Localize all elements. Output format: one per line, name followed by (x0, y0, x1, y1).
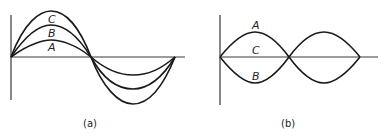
panel-b: A C B (b) (220, 15, 378, 129)
label-c-b: C (252, 44, 260, 57)
label-a-b: A (251, 19, 260, 32)
curve-a-upper (220, 32, 360, 57)
caption-b: (b) (281, 118, 295, 129)
label-b-a: B (48, 27, 56, 40)
curve-b-lower (220, 57, 360, 83)
label-b-b: B (252, 70, 260, 83)
label-c-a: C (48, 13, 56, 26)
label-a-a: A (47, 41, 56, 54)
wave-figure: C B A (a) A C B (b) (0, 0, 384, 136)
caption-a: (a) (83, 118, 97, 129)
panel-a: C B A (a) (11, 11, 185, 129)
